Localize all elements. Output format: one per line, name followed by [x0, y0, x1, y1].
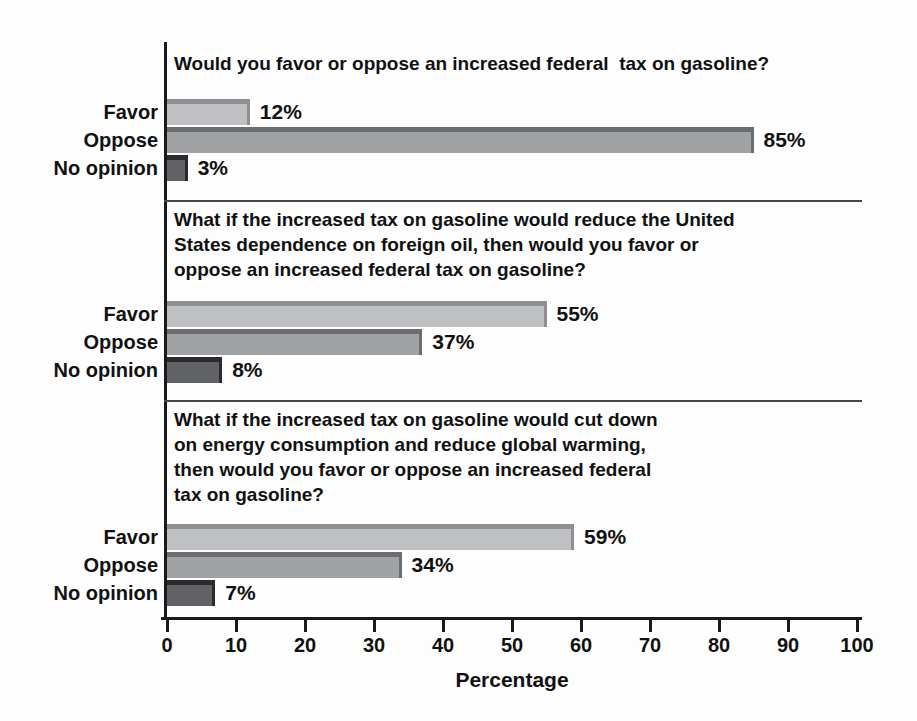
- category-label-favor: Favor: [0, 99, 158, 125]
- bar-row: Oppose 34%: [0, 552, 917, 578]
- category-label-no-opinion: No opinion: [0, 155, 158, 181]
- bar-track: 85%: [167, 127, 857, 153]
- bar-row: No opinion 7%: [0, 580, 917, 606]
- question-text-1: Would you favor or oppose an increased f…: [174, 51, 904, 76]
- bar-row: Oppose 37%: [0, 329, 917, 355]
- section-divider: [164, 400, 862, 402]
- bar-row: No opinion 8%: [0, 357, 917, 383]
- value-label: 85%: [764, 127, 806, 153]
- x-axis-tick: [580, 620, 583, 632]
- category-label-oppose: Oppose: [0, 329, 158, 355]
- category-label-favor: Favor: [0, 524, 158, 550]
- x-axis-tick: [718, 620, 721, 632]
- favor-bar: [167, 301, 547, 327]
- value-label: 7%: [225, 580, 255, 606]
- oppose-bar: [167, 329, 422, 355]
- value-label: 55%: [557, 301, 599, 327]
- no-opinion-bar: [167, 357, 222, 383]
- category-label-oppose: Oppose: [0, 552, 158, 578]
- bar-track: 8%: [167, 357, 857, 383]
- x-axis-tick-label: 90: [777, 634, 799, 657]
- x-axis-tick-label: 0: [161, 634, 172, 657]
- poll-bar-chart: Would you favor or oppose an increased f…: [0, 0, 917, 721]
- oppose-bar: [167, 127, 754, 153]
- x-axis-tick-label: 30: [363, 634, 385, 657]
- x-axis-tick: [373, 620, 376, 632]
- favor-bar: [167, 524, 574, 550]
- value-label: 12%: [260, 99, 302, 125]
- x-axis-tick-label: 50: [501, 634, 523, 657]
- value-label: 8%: [232, 357, 262, 383]
- oppose-bar: [167, 552, 402, 578]
- x-axis-tick-label: 60: [570, 634, 592, 657]
- x-axis-tick: [787, 620, 790, 632]
- x-axis-tick: [856, 620, 859, 632]
- value-label: 59%: [584, 524, 626, 550]
- bar-row: Favor 59%: [0, 524, 917, 550]
- bar-track: 37%: [167, 329, 857, 355]
- bar-track: 12%: [167, 99, 857, 125]
- x-axis-tick: [166, 620, 169, 632]
- value-label: 37%: [432, 329, 474, 355]
- no-opinion-bar: [167, 580, 215, 606]
- bar-row: Favor 55%: [0, 301, 917, 327]
- x-axis-tick: [649, 620, 652, 632]
- category-label-no-opinion: No opinion: [0, 357, 158, 383]
- bar-row: No opinion 3%: [0, 155, 917, 181]
- section-divider: [164, 200, 862, 202]
- bar-track: 7%: [167, 580, 857, 606]
- bar-track: 34%: [167, 552, 857, 578]
- bar-track: 55%: [167, 301, 857, 327]
- category-label-oppose: Oppose: [0, 127, 158, 153]
- value-label: 34%: [412, 552, 454, 578]
- x-axis-tick: [304, 620, 307, 632]
- category-label-no-opinion: No opinion: [0, 580, 158, 606]
- x-axis-tick: [235, 620, 238, 632]
- question-text-3: What if the increased tax on gasoline wo…: [174, 407, 904, 507]
- bar-row: Oppose 85%: [0, 127, 917, 153]
- category-label-favor: Favor: [0, 301, 158, 327]
- question-text-2: What if the increased tax on gasoline wo…: [174, 207, 904, 282]
- x-axis-tick: [511, 620, 514, 632]
- value-label: 3%: [198, 155, 228, 181]
- x-axis-tick-label: 100: [840, 634, 873, 657]
- bar-track: 3%: [167, 155, 857, 181]
- x-axis-tick-label: 10: [225, 634, 247, 657]
- x-axis-tick-label: 80: [708, 634, 730, 657]
- x-axis-tick: [442, 620, 445, 632]
- bar-row: Favor 12%: [0, 99, 917, 125]
- favor-bar: [167, 99, 250, 125]
- bar-track: 59%: [167, 524, 857, 550]
- no-opinion-bar: [167, 155, 188, 181]
- x-axis-tick-label: 40: [432, 634, 454, 657]
- x-axis-tick-label: 70: [639, 634, 661, 657]
- x-axis-title: Percentage: [455, 668, 568, 692]
- x-axis-tick-label: 20: [294, 634, 316, 657]
